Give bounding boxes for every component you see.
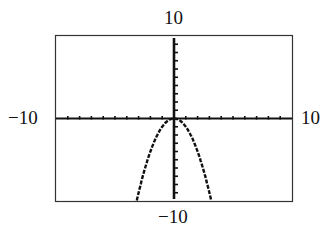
axes xyxy=(56,38,292,199)
ymax-label: 10 xyxy=(164,8,183,27)
xmax-label: 10 xyxy=(301,108,320,127)
graph-window xyxy=(0,0,330,229)
ymin-label: −10 xyxy=(158,207,188,226)
xmin-label: −10 xyxy=(8,108,38,127)
